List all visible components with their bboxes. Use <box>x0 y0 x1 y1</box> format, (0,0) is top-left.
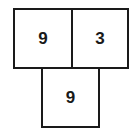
box-top-left: 9 <box>13 8 73 69</box>
box-value: 9 <box>38 29 47 49</box>
box-value: 9 <box>66 88 75 108</box>
box-value: 3 <box>95 29 104 49</box>
box-top-right: 3 <box>71 8 129 69</box>
box-bottom-center: 9 <box>41 67 100 128</box>
